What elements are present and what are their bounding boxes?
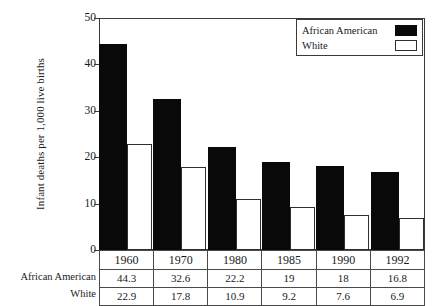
table-cell-year-1985: 1985 [262, 251, 316, 270]
bar-african-american-1970 [153, 99, 181, 250]
row-label-african-american: African American [1, 268, 96, 285]
row-label-white: White [1, 285, 96, 302]
legend-label-white: White [302, 40, 328, 51]
y-tick-label-20: 20 [62, 151, 96, 163]
bar-african-american-1985 [262, 162, 290, 250]
y-tick-label-10: 10 [62, 198, 96, 210]
bar-white-1960 [127, 144, 152, 250]
outlined-white-swatch-icon [395, 40, 417, 51]
data-table: 19601970198019851990199244.332.622.21918… [99, 250, 425, 306]
table-cell-white-1980: 10.9 [208, 288, 262, 306]
table-cell-white-1985: 9.2 [262, 288, 316, 306]
chart-legend: African American White [296, 19, 423, 56]
table-cell-african-american-1992: 16.8 [370, 270, 424, 288]
table-row-white: 22.917.810.99.27.66.9 [100, 288, 425, 306]
table-cell-white-1990: 7.6 [316, 288, 370, 306]
table-cell-african-american-1970: 32.6 [154, 270, 208, 288]
table-cell-white-1970: 17.8 [154, 288, 208, 306]
bar-african-american-1992 [371, 172, 399, 250]
legend-item-white: White [302, 38, 417, 53]
bar-white-1990 [344, 215, 369, 250]
bar-white-1980 [236, 199, 261, 250]
table-cell-year-1970: 1970 [154, 251, 208, 270]
y-tick-label-50: 50 [62, 12, 96, 24]
bar-white-1970 [181, 167, 206, 250]
table-cell-african-american-1990: 18 [316, 270, 370, 288]
y-axis-title: Infant deaths per 1,000 live births [34, 19, 46, 249]
table-row-african-american: 44.332.622.2191816.8 [100, 270, 425, 288]
table-cell-year-1960: 1960 [100, 251, 154, 270]
table-cell-year-1990: 1990 [316, 251, 370, 270]
y-tick-label-30: 30 [62, 105, 96, 117]
table-cell-african-american-1985: 19 [262, 270, 316, 288]
filled-black-swatch-icon [395, 25, 417, 36]
table-cell-year-1992: 1992 [370, 251, 424, 270]
legend-label-african-american: African American [302, 25, 378, 36]
table-cell-year-1980: 1980 [208, 251, 262, 270]
table-cell-african-american-1980: 22.2 [208, 270, 262, 288]
y-tick-label-40: 40 [62, 58, 96, 70]
table-cell-white-1960: 22.9 [100, 288, 154, 306]
table-cell-african-american-1960: 44.3 [100, 270, 154, 288]
table-row-years: 196019701980198519901992 [100, 251, 425, 270]
bar-african-american-1960 [99, 44, 127, 250]
bar-white-1985 [290, 207, 315, 250]
legend-item-african-american: African American [302, 23, 417, 38]
bar-african-american-1990 [316, 166, 344, 250]
y-tick-label-0: 0 [62, 244, 96, 256]
bar-white-1992 [399, 218, 424, 250]
table-cell-white-1992: 6.9 [370, 288, 424, 306]
bar-african-american-1980 [208, 147, 236, 250]
